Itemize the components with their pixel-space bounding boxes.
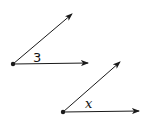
- vertex-point: [11, 62, 15, 66]
- ray-lower: [13, 63, 88, 64]
- angle-x: x: [61, 62, 139, 114]
- angle-label: x: [85, 96, 93, 111]
- angle-diagram: 3 x: [0, 0, 142, 124]
- angle-label: 3: [33, 50, 41, 65]
- ray-lower: [63, 111, 139, 112]
- angle-3: 3: [11, 14, 88, 66]
- vertex-point: [61, 110, 65, 114]
- ray-upper: [13, 14, 72, 64]
